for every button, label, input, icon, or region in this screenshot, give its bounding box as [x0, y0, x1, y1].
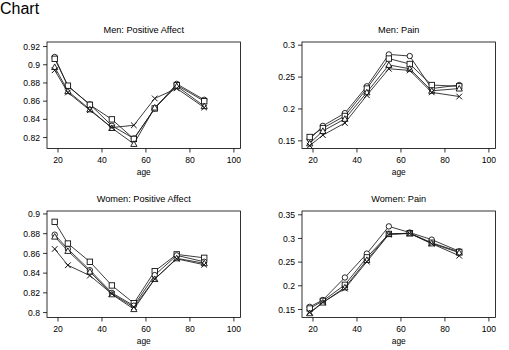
- series-circle: [306, 223, 461, 309]
- y-tick-label: 0.86: [23, 96, 40, 106]
- series-circle: [52, 231, 207, 307]
- x-tick-label: 80: [185, 155, 195, 165]
- y-tick-label: 0.15: [278, 304, 295, 314]
- x-tick-label: 40: [97, 323, 107, 333]
- x-tick-label: 20: [308, 155, 318, 165]
- x-tick-label: 40: [97, 155, 107, 165]
- x-tick-label: 80: [440, 323, 450, 333]
- y-tick-label: 0.9: [28, 60, 40, 70]
- x-tick-label: 20: [308, 323, 318, 333]
- data-marker-square: [306, 134, 311, 139]
- series-line: [55, 67, 205, 144]
- series-cross: [306, 230, 461, 315]
- series-line: [309, 233, 459, 308]
- x-tick-label: 60: [396, 155, 406, 165]
- y-tick-label: 0.2: [283, 280, 295, 290]
- panel-title: Women: Positive Affect: [97, 194, 192, 204]
- x-tick-label: 20: [53, 323, 63, 333]
- y-tick-label: 0.3: [283, 40, 295, 50]
- x-tick-label: 60: [396, 323, 406, 333]
- x-tick-label: 80: [185, 323, 195, 333]
- y-tick-label: 0.88: [23, 78, 40, 88]
- x-axis-label: age: [391, 167, 405, 177]
- data-marker-square: [52, 56, 57, 61]
- x-tick-label: 60: [141, 155, 151, 165]
- data-marker-circle: [386, 223, 391, 228]
- series-line: [55, 236, 205, 308]
- plot-frame: [302, 42, 496, 149]
- series-line: [55, 234, 205, 305]
- chart-panel-men-pain: Men: Pain0.150.20.250.320406080100age: [255, 18, 509, 187]
- series-triangle: [52, 64, 208, 147]
- y-tick-label: 0.86: [23, 248, 40, 258]
- chart-panel-men-positive-affect: Men: Positive Affect0.820.840.860.880.90…: [0, 18, 255, 187]
- y-tick-label: 0.8: [28, 307, 40, 317]
- y-tick-label: 0.25: [278, 257, 295, 267]
- data-marker-circle: [342, 274, 347, 279]
- x-axis-label: age: [137, 335, 151, 345]
- data-marker-square: [52, 219, 57, 224]
- y-tick-label: 0.82: [23, 287, 40, 297]
- data-marker-x: [52, 246, 58, 252]
- panel-title: Women: Pain: [371, 194, 426, 204]
- x-tick-label: 100: [227, 323, 242, 333]
- y-tick-label: 0.92: [23, 42, 40, 52]
- series-line: [309, 65, 459, 143]
- panel-grid: Men: Positive Affect0.820.840.860.880.90…: [0, 18, 509, 350]
- data-marker-square: [65, 240, 70, 245]
- y-tick-label: 0.35: [278, 209, 295, 219]
- series-line: [309, 69, 459, 146]
- panel-title: Men: Pain: [378, 25, 419, 35]
- series-line: [55, 57, 205, 138]
- data-marker-x: [65, 262, 71, 268]
- data-marker-square: [87, 259, 92, 264]
- series-line: [55, 221, 205, 302]
- y-tick-label: 0.9: [28, 209, 40, 219]
- data-marker-square: [386, 56, 391, 61]
- x-tick-label: 40: [352, 323, 362, 333]
- x-tick-label: 100: [227, 155, 242, 165]
- x-axis-label: age: [137, 167, 151, 177]
- y-tick-label: 0.88: [23, 228, 40, 238]
- x-axis-label: age: [391, 335, 405, 345]
- series-line: [309, 54, 459, 139]
- x-tick-label: 80: [440, 155, 450, 165]
- data-marker-x: [152, 96, 158, 102]
- y-tick-label: 0.84: [23, 114, 40, 124]
- chart-panel-women-pain: Women: Pain0.150.20.250.30.3520406080100…: [255, 187, 509, 350]
- chart-panel-women-positive-affect: Women: Positive Affect0.80.820.840.860.8…: [0, 187, 255, 350]
- x-tick-label: 100: [481, 323, 496, 333]
- panel-title: Men: Positive Affect: [103, 25, 184, 35]
- data-marker-square: [109, 282, 114, 287]
- plot-frame: [47, 211, 241, 318]
- data-marker-square: [109, 117, 114, 122]
- series-square: [52, 219, 207, 306]
- series-line: [309, 233, 459, 313]
- y-tick-label: 0.25: [278, 72, 295, 82]
- series-cross: [52, 67, 207, 130]
- x-tick-label: 60: [141, 323, 151, 333]
- x-tick-label: 20: [53, 155, 63, 165]
- y-tick-label: 0.84: [23, 268, 40, 278]
- x-tick-label: 40: [352, 155, 362, 165]
- y-tick-label: 0.3: [283, 233, 295, 243]
- series-cross: [306, 66, 461, 149]
- plot-frame: [47, 42, 241, 149]
- y-tick-label: 0.2: [283, 104, 295, 114]
- plot-frame: [302, 211, 496, 318]
- x-tick-label: 100: [481, 155, 496, 165]
- data-marker-circle: [407, 53, 412, 58]
- y-tick-label: 0.82: [23, 133, 40, 143]
- y-tick-label: 0.15: [278, 136, 295, 146]
